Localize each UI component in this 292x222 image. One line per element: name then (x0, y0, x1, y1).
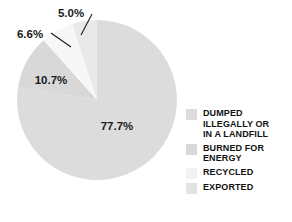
legend-item-recycled[interactable]: RECYCLED (186, 167, 292, 179)
slice-value-burned: 10.7% (35, 74, 68, 86)
slice-value-recycled: 6.6% (17, 28, 43, 40)
legend-swatch-recycled (186, 168, 197, 179)
chart-legend: DUMPED ILLEGALLY OR IN A LANDFILL BURNED… (186, 108, 292, 197)
legend-item-burned[interactable]: BURNED FOR ENERGY (186, 143, 292, 164)
legend-label-dumped: DUMPED ILLEGALLY OR IN A LANDFILL (203, 108, 269, 140)
slice-value-exported: 5.0% (58, 7, 84, 19)
legend-swatch-dumped (186, 109, 197, 120)
legend-label-exported: EXPORTED (203, 182, 253, 193)
legend-swatch-burned (186, 144, 197, 155)
legend-label-recycled: RECYCLED (203, 167, 253, 178)
legend-item-dumped[interactable]: DUMPED ILLEGALLY OR IN A LANDFILL (186, 108, 292, 140)
slice-value-dumped: 77.7% (101, 120, 134, 132)
legend-item-exported[interactable]: EXPORTED (186, 182, 292, 194)
legend-swatch-exported (186, 183, 197, 194)
pie-chart-figure: 77.7% 10.7% 6.6% 5.0% DUMPED ILLEGALLY O… (0, 0, 292, 222)
legend-label-burned: BURNED FOR ENERGY (203, 143, 264, 164)
